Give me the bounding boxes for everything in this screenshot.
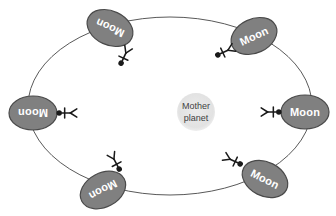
moon-top-left[interactable]: Moon [81, 2, 139, 67]
moon-left-body: Moon [9, 96, 57, 130]
orbit-diagram: Mother planet MoonMoonMoonMoonMoonMoon [0, 0, 336, 216]
moon-bottom-right-body: Moon [236, 153, 294, 205]
moon-left-label: Moon [18, 107, 48, 119]
moon-bottom-left-stick-figure-icon [107, 151, 125, 174]
moon-top-left-body: Moon [81, 2, 139, 53]
moon-bottom-right-stick-figure-icon [222, 152, 245, 170]
moon-right-label: Moon [290, 106, 320, 118]
moon-right[interactable]: Moon [261, 95, 329, 129]
moon-right-body: Moon [281, 95, 329, 129]
diagram-canvas: Mother planet MoonMoonMoonMoonMoonMoon [0, 0, 336, 216]
moon-bottom-left-body: Moon [74, 164, 132, 216]
moon-bottom-left[interactable]: Moon [74, 151, 132, 216]
moon-right-stick-figure-icon [261, 107, 281, 117]
mother-planet-label-line1: Mother [182, 101, 210, 111]
moon-left[interactable]: Moon [9, 96, 77, 130]
mother-planet-body [177, 93, 215, 131]
moon-left-stick-figure-icon [56, 108, 76, 118]
mother-planet: Mother planet [177, 93, 215, 131]
moon-top-right[interactable]: Moon [213, 10, 283, 61]
mother-planet-label-line2: planet [184, 113, 209, 123]
moon-top-right-body: Moon [225, 10, 283, 61]
moon-layer: MoonMoonMoonMoonMoonMoon [9, 2, 329, 216]
moon-top-left-stick-figure-icon [115, 45, 133, 68]
